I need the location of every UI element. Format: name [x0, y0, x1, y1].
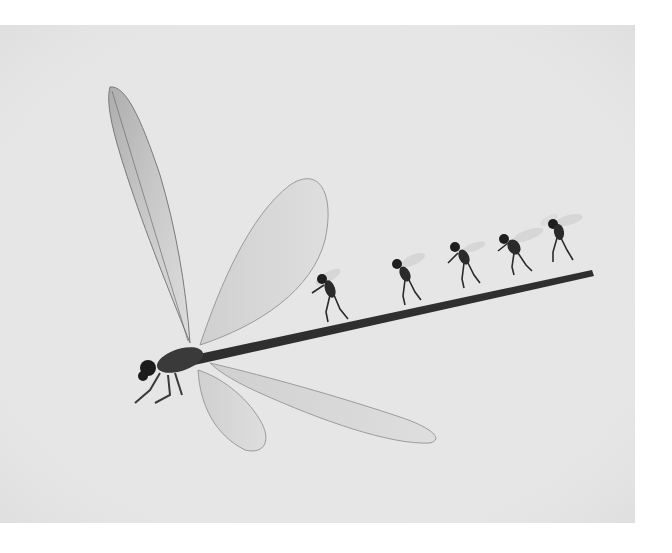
photo: Grayscale macro photo of a damselfly who… [0, 25, 635, 523]
damselfly-scene [0, 25, 635, 523]
